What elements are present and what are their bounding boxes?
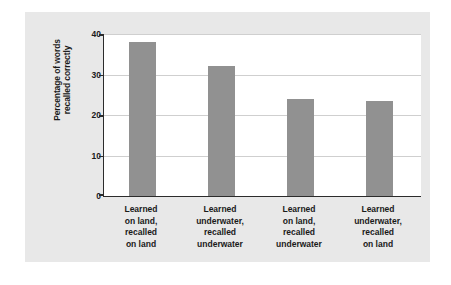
y-axis-title-line-2: recalled correctly [62,46,73,115]
y-tick-label-40: 40 [79,29,101,39]
y-tick-label-10: 10 [79,151,101,161]
y-tick-label-20: 20 [79,110,101,120]
bar-learned-underwater-recalled-underwater[interactable] [208,66,235,196]
category-label-4-line-4: on land [332,239,424,251]
category-label-4: Learned underwater, recalled on land [332,204,424,250]
bar-learned-on-land-recalled-underwater[interactable] [287,99,314,196]
y-axis-title: Percentage of words recalled correctly [49,0,75,160]
bar-learned-underwater-recalled-on-land[interactable] [366,101,393,196]
figure-panel: Percentage of words recalled correctly 4… [25,12,430,262]
y-tick-label-0: 0 [79,191,101,201]
category-label-4-line-1: Learned [332,204,424,216]
bars-layer [104,34,421,196]
x-axis-category-labels: Learned on land, recalled on land Learne… [103,204,420,264]
y-axis-title-line-1: Percentage of words [52,39,63,121]
y-tick-label-30: 30 [79,70,101,80]
category-label-4-line-2: underwater, [332,216,424,228]
bar-learned-on-land-recalled-on-land[interactable] [129,42,156,196]
category-label-4-line-3: recalled [332,227,424,239]
plot-area [103,34,421,197]
